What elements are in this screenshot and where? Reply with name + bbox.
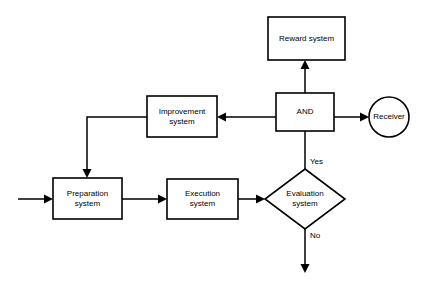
node-label-preparation-system: Preparation system [53, 178, 122, 219]
edge-and-to-receiver [334, 113, 369, 122]
node-label-evaluation-system: Evaluation system [275, 182, 335, 216]
flowchart-canvas [0, 0, 425, 287]
node-label-receiver: Receiver [369, 97, 409, 137]
node-label-improvement-system: Improvement system [147, 96, 217, 137]
edge-and-to-reward [301, 60, 310, 93]
node-label-reward-system: Reward system [268, 17, 345, 60]
edge-improvement-to-preparation [83, 117, 148, 178]
edge-preparation-to-execution [122, 195, 167, 204]
edge-input-to-preparation [18, 195, 53, 204]
edge-execution-to-evaluation [238, 195, 265, 204]
flowchart-diagram: Reward system Improvement system AND Rec… [0, 0, 425, 287]
node-label-and-gate: AND [276, 93, 334, 131]
edge-evaluation-no-output [301, 229, 310, 273]
edge-label-no: No [310, 231, 320, 240]
edge-and-to-improvement [217, 113, 276, 122]
node-label-execution-system: Execution system [167, 179, 238, 219]
edge-label-yes: Yes [310, 157, 323, 166]
